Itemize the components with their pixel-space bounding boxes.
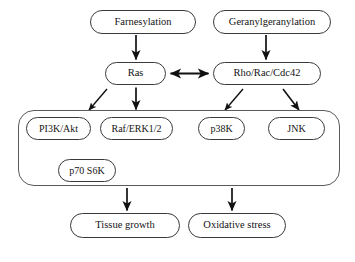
node-jnk-label: JNK	[285, 124, 307, 134]
node-jnk[interactable]: JNK	[268, 117, 325, 140]
edge-rho-to-p38k	[225, 89, 243, 110]
node-tissue-growth[interactable]: Tissue growth	[70, 213, 180, 238]
node-raf-erk1-2-label: Raf/ERK1/2	[110, 124, 164, 134]
node-raf-erk1-2[interactable]: Raf/ERK1/2	[100, 117, 173, 140]
node-pi3k-akt-label: PI3K/Akt	[37, 124, 80, 134]
node-pi3k-akt[interactable]: PI3K/Akt	[26, 117, 91, 140]
edge-rho-to-jnk	[283, 89, 299, 110]
node-tissue-growth-label: Tissue growth	[93, 220, 156, 231]
node-rho-rac-cdc42[interactable]: Rho/Rac/Cdc42	[213, 62, 321, 85]
node-p38k-label: p38K	[208, 124, 234, 134]
node-ras-label: Ras	[126, 68, 146, 79]
node-p70-s6k-label: p70 S6K	[67, 166, 106, 176]
pathway-diagram: Farnesylation Geranylgeranylation Ras Rh…	[0, 0, 355, 262]
node-oxidative-stress-label: Oxidative stress	[201, 220, 272, 231]
node-oxidative-stress[interactable]: Oxidative stress	[188, 213, 286, 238]
node-geranylgeranylation-label: Geranylgeranylation	[227, 17, 317, 28]
node-ras[interactable]: Ras	[105, 62, 166, 85]
node-p38k[interactable]: p38K	[198, 117, 245, 140]
node-p70-s6k[interactable]: p70 S6K	[58, 159, 116, 182]
node-farnesylation[interactable]: Farnesylation	[90, 10, 196, 34]
edge-ras-to-pi3k	[89, 89, 107, 110]
node-farnesylation-label: Farnesylation	[112, 17, 173, 28]
node-geranylgeranylation[interactable]: Geranylgeranylation	[213, 10, 331, 34]
node-rho-rac-cdc42-label: Rho/Rac/Cdc42	[231, 68, 302, 79]
